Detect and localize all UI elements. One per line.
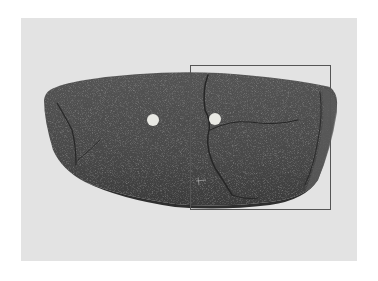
perforation-hole-right [209,113,221,125]
stone-artifact-image [0,0,378,281]
perforation-hole-left [147,114,159,126]
